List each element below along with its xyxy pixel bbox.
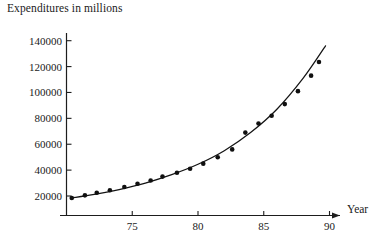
x-tick-marks [132, 211, 329, 216]
x-tick-label: 85 [258, 220, 269, 232]
data-point [148, 178, 153, 183]
y-tick-label: 20000 [16, 190, 62, 202]
data-point [309, 73, 314, 78]
data-point [175, 170, 180, 175]
data-point [108, 188, 113, 193]
data-point [201, 161, 206, 166]
y-tick-label: 120000 [16, 61, 62, 73]
data-point [160, 174, 165, 179]
data-point [83, 193, 88, 198]
chart-container: Expenditures in millions Year 2000040000… [0, 0, 383, 252]
data-point [256, 121, 261, 126]
fitted-curve [72, 46, 326, 198]
data-point [94, 190, 99, 195]
data-point [269, 113, 274, 118]
data-point [215, 155, 220, 160]
y-tick-label: 100000 [16, 86, 62, 98]
data-point [69, 196, 74, 201]
data-point [243, 130, 248, 135]
data-points [69, 60, 321, 200]
data-point [282, 102, 287, 107]
data-point [188, 167, 193, 172]
data-point [230, 147, 235, 152]
x-tick-label: 75 [127, 220, 138, 232]
y-tick-label: 60000 [16, 138, 62, 150]
x-axis-arrowhead [332, 212, 340, 218]
data-point [122, 185, 127, 190]
x-tick-label: 90 [324, 220, 335, 232]
y-tick-label: 80000 [16, 112, 62, 124]
y-tick-label: 140000 [16, 35, 62, 47]
data-point [317, 60, 322, 65]
y-axis [67, 33, 72, 216]
x-tick-label: 80 [193, 220, 204, 232]
data-point [135, 181, 140, 186]
y-tick-marks [67, 41, 72, 196]
data-point [296, 89, 301, 94]
y-tick-label: 40000 [16, 164, 62, 176]
x-axis [60, 211, 340, 219]
